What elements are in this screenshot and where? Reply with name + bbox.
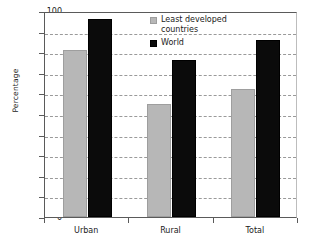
legend-item-label: World — [161, 38, 184, 48]
x-axis-tick-mark — [213, 218, 214, 223]
bar-total-least-developed-countries — [231, 89, 255, 217]
legend-item: World — [150, 38, 227, 48]
bar-total-world — [256, 40, 280, 217]
legend-item-label: Least developed countries — [161, 15, 227, 35]
x-axis-tick-mark — [128, 218, 129, 223]
bar-rural-world — [172, 60, 196, 217]
bar-chart: Percentage 1009080706050403020100 UrbanR… — [0, 0, 311, 242]
gray-square-marker-icon — [150, 17, 157, 24]
x-axis-tick-mark — [297, 218, 298, 223]
bar-rural-least-developed-countries — [147, 104, 171, 217]
x-axis-tick-label-urban: Urban — [46, 226, 126, 235]
x-axis-tick-label-total: Total — [215, 226, 295, 235]
legend-item: Least developed countries — [150, 15, 227, 35]
x-axis-tick-label-rural: Rural — [131, 226, 211, 235]
bar-urban-least-developed-countries — [63, 50, 87, 217]
bar-urban-world — [88, 19, 112, 217]
y-axis-title: Percentage — [11, 46, 20, 136]
legend: Least developed countriesWorld — [150, 15, 227, 51]
x-axis-tick-mark — [44, 218, 45, 223]
black-square-marker-icon — [150, 40, 157, 47]
